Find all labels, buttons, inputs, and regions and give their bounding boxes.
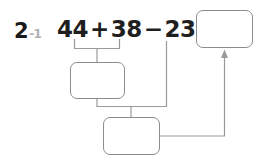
worksheet-problem-canvas: 2 -1 44 + 38 − 23 = (0, 0, 266, 162)
answer-box-step-one[interactable] (70, 62, 125, 99)
bracket-addition (75, 39, 120, 62)
arrow-to-result (160, 50, 228, 137)
answer-box-step-two[interactable] (103, 117, 160, 155)
answer-box-result[interactable] (196, 10, 253, 48)
